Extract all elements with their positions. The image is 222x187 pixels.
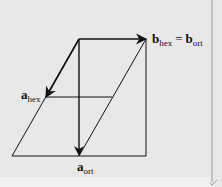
diagram-canvas: bhex=bort ahex aort — [0, 0, 222, 187]
a-hex-subscript: hex — [28, 94, 41, 104]
label-b-hex-equals-b-ort: bhex=bort — [152, 32, 203, 48]
vector-a-hex-arrow — [46, 39, 79, 97]
label-a-ort: aort — [77, 160, 94, 176]
b-ort-subscript: ort — [193, 38, 203, 48]
bottom-strip — [0, 177, 210, 187]
b-ort-symbol: b — [186, 31, 193, 46]
a-ort-subscript: ort — [84, 166, 94, 176]
b-hex-subscript: hex — [159, 38, 172, 48]
label-a-hex: ahex — [21, 88, 41, 104]
equals-sign: = — [175, 31, 182, 46]
